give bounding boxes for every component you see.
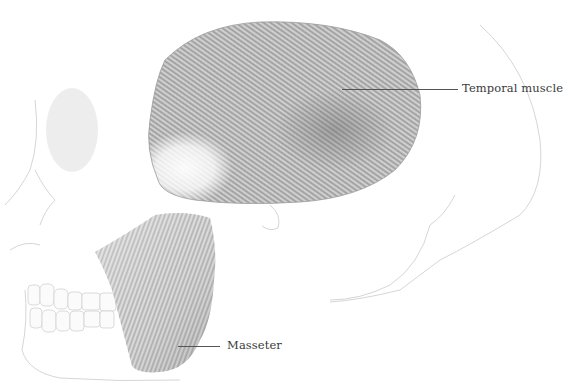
skull-illustration — [0, 0, 564, 387]
temporal-muscle-label: Temporal muscle — [462, 81, 563, 95]
masseter-leader-line — [178, 346, 220, 347]
temporal-leader-line — [342, 89, 458, 90]
masseter-muscle — [95, 213, 215, 372]
masseter-label: Masseter — [227, 338, 282, 352]
temporal-muscle — [137, 22, 421, 204]
orbit-shading — [46, 88, 98, 172]
anatomy-figure: Temporal muscle Masseter — [0, 0, 564, 387]
teeth — [28, 284, 116, 332]
